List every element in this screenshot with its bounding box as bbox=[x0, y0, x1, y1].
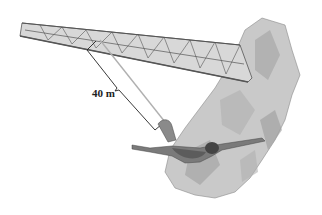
truss-bridge bbox=[20, 23, 252, 82]
cord-length-label: 40 m bbox=[92, 87, 115, 99]
bungee-illustration bbox=[0, 0, 322, 215]
